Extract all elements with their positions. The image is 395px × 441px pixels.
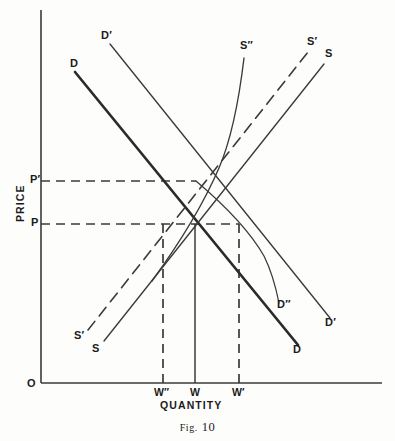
curve-demand-d	[75, 72, 298, 345]
x-tick-label-w-double-prime: W″	[154, 386, 169, 398]
y-tick-label-p-prime: P′	[30, 173, 40, 185]
reference-lines-group	[41, 181, 239, 383]
x-tick-label-w-prime: W′	[232, 386, 245, 398]
curve-demand-d-double-prime	[196, 181, 279, 303]
curve-label-s-prime-top: S′	[307, 35, 317, 47]
origin-label: O	[27, 377, 36, 389]
curve-demand-d-prime	[110, 44, 330, 318]
curve-label-s-prime-bottom: S′	[74, 329, 84, 341]
curves-group	[75, 44, 330, 345]
curve-label-d-prime-top: D′	[101, 29, 112, 41]
supply-demand-plot	[0, 0, 395, 441]
curve-label-d-top: D	[70, 57, 78, 69]
figure-10: D D′ S″ S′ S S′ S D″ D′ D P′ P O W″ W W′…	[0, 0, 395, 441]
y-axis-title: PRICE	[14, 184, 26, 222]
curve-label-d-bottom-right: D	[293, 343, 301, 355]
curve-label-d-prime-right: D′	[325, 316, 336, 328]
y-tick-label-p: P	[31, 216, 39, 228]
curve-label-d-double-prime-right: D″	[277, 298, 291, 310]
figure-caption: Fig. 10	[0, 420, 395, 435]
curve-label-s-double-prime-top: S″	[240, 39, 253, 51]
x-tick-label-w: W	[190, 386, 200, 398]
curve-supply-s-double-prime	[152, 58, 244, 281]
x-axis-title: QUANTITY	[160, 399, 222, 411]
figure-caption-prefix: Fig.	[180, 422, 198, 433]
figure-caption-number: 10	[202, 420, 216, 434]
curve-label-s-bottom: S	[92, 342, 100, 354]
curve-supply-s	[104, 64, 324, 341]
curve-label-s-top: S	[325, 47, 333, 59]
